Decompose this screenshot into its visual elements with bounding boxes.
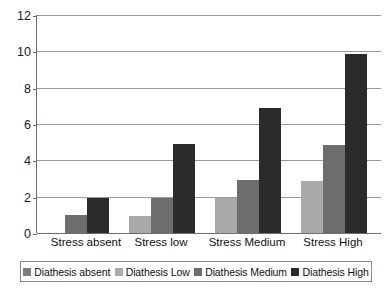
legend-swatch-icon bbox=[291, 268, 299, 276]
y-axis-tick-mark bbox=[33, 234, 37, 235]
bar bbox=[345, 54, 367, 233]
legend-item[interactable]: Diathesis Low bbox=[115, 266, 190, 278]
y-axis-tick-label: 0 bbox=[24, 227, 31, 241]
bar-group bbox=[209, 15, 295, 233]
bar-group bbox=[37, 15, 123, 233]
bar bbox=[87, 198, 109, 233]
bar bbox=[237, 180, 259, 233]
legend-item[interactable]: Diathesis absent bbox=[23, 266, 110, 278]
gridline-0: 0 bbox=[37, 233, 381, 234]
bar bbox=[301, 181, 323, 233]
y-axis-tick-label: 6 bbox=[24, 118, 31, 132]
y-axis-tick-label: 2 bbox=[24, 191, 31, 205]
chart-legend: Diathesis absentDiathesis LowDiathesis M… bbox=[20, 261, 372, 282]
legend-label: Diathesis Medium bbox=[205, 266, 287, 278]
legend-swatch-icon bbox=[23, 268, 31, 276]
category-axis-labels: Stress absentStress lowStress MediumStre… bbox=[36, 236, 381, 254]
legend-item[interactable]: Diathesis High bbox=[291, 266, 368, 278]
bars-layer bbox=[37, 15, 381, 233]
bar bbox=[65, 215, 87, 233]
bar-chart: 024681012 Stress absentStress lowStress … bbox=[0, 0, 389, 294]
legend-label: Diathesis Low bbox=[126, 266, 190, 278]
legend-item[interactable]: Diathesis Medium bbox=[194, 266, 287, 278]
bar bbox=[323, 145, 345, 233]
bar bbox=[173, 144, 195, 233]
category-label: Stress absent bbox=[51, 236, 121, 248]
bar bbox=[151, 198, 173, 233]
bar bbox=[259, 108, 281, 233]
legend-swatch-icon bbox=[194, 268, 202, 276]
bar bbox=[129, 216, 151, 233]
bar bbox=[215, 198, 237, 233]
y-axis-tick-label: 4 bbox=[24, 154, 31, 168]
bar-group bbox=[123, 15, 209, 233]
bar-group bbox=[295, 15, 381, 233]
legend-label: Diathesis absent bbox=[34, 266, 110, 278]
y-axis-tick-label: 12 bbox=[17, 9, 31, 23]
legend-swatch-icon bbox=[115, 268, 123, 276]
category-label: Stress High bbox=[303, 236, 362, 248]
plot-area: 024681012 bbox=[36, 15, 381, 233]
y-axis-tick-label: 8 bbox=[24, 82, 31, 96]
y-axis-tick-label: 10 bbox=[17, 45, 31, 59]
category-label: Stress Medium bbox=[209, 236, 286, 248]
legend-label: Diathesis High bbox=[302, 266, 368, 278]
category-label: Stress low bbox=[134, 236, 187, 248]
